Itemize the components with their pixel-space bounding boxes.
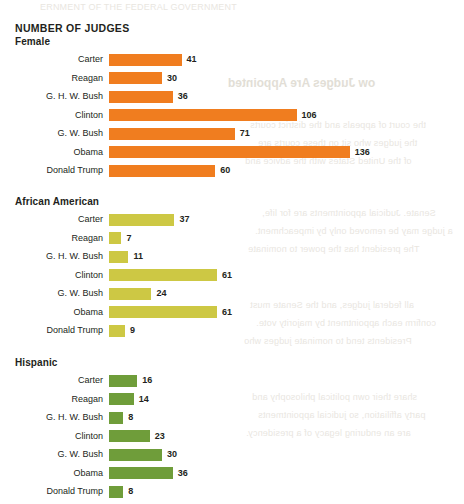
bar-value: 30 (167, 447, 177, 462)
bar-wrap: 36 (109, 466, 455, 481)
chart-row: Obama136 (15, 145, 455, 160)
bar-wrap: 30 (109, 71, 455, 86)
bar-wrap: 71 (109, 126, 455, 141)
chart-row: Reagan14 (15, 392, 455, 407)
row-label: Reagan (15, 392, 109, 407)
row-label: G. H. W. Bush (15, 89, 109, 104)
row-label: Carter (15, 373, 109, 388)
row-label: Obama (15, 305, 109, 320)
row-label: G. H. W. Bush (15, 410, 109, 425)
row-label: G. W. Bush (15, 126, 109, 141)
chart-row: Donald Trump8 (15, 484, 455, 499)
bar-value: 8 (128, 484, 133, 499)
chart-row: Reagan7 (15, 231, 455, 246)
bar-wrap: 136 (109, 145, 455, 160)
bar-wrap: 7 (109, 231, 455, 246)
bar (109, 214, 174, 226)
chart-row: Carter41 (15, 52, 455, 67)
bar-value: 71 (240, 126, 250, 141)
bar-wrap: 8 (109, 410, 455, 425)
bar (109, 165, 215, 177)
bar (109, 128, 235, 140)
bar-value: 11 (133, 249, 143, 264)
bar-wrap: 36 (109, 89, 455, 104)
bar-value: 24 (156, 286, 166, 301)
group-label: Hispanic (15, 357, 455, 368)
bar (109, 325, 125, 337)
bar-value: 37 (179, 212, 189, 227)
chart-row: Donald Trump9 (15, 323, 455, 338)
chart-row: G. W. Bush30 (15, 447, 455, 462)
bar (109, 393, 134, 405)
bar-value: 61 (222, 268, 232, 283)
bar (109, 430, 150, 442)
chart-row: Reagan30 (15, 71, 455, 86)
bar-value: 36 (178, 89, 188, 104)
chart-row: Obama36 (15, 466, 455, 481)
bar (109, 232, 121, 244)
bar-wrap: 30 (109, 447, 455, 462)
chart-title: NUMBER OF JUDGES (15, 22, 129, 34)
bar-value: 60 (220, 163, 230, 178)
row-label: Carter (15, 212, 109, 227)
chart-row: G. W. Bush71 (15, 126, 455, 141)
chart-row: Clinton23 (15, 429, 455, 444)
bar (109, 375, 137, 387)
bar (109, 269, 217, 281)
chart-row: Carter37 (15, 212, 455, 227)
bar (109, 72, 162, 84)
bar (109, 449, 162, 461)
bar-value: 8 (128, 410, 133, 425)
bar-wrap: 61 (109, 268, 455, 283)
bar (109, 467, 173, 479)
judges-chart: NUMBER OF JUDGES FemaleCarter41Reagan30G… (0, 0, 464, 504)
bar-value: 61 (222, 305, 232, 320)
chart-row: G. H. W. Bush11 (15, 249, 455, 264)
chart-row: Carter16 (15, 373, 455, 388)
row-label: Obama (15, 145, 109, 160)
bar-value: 9 (130, 323, 135, 338)
row-label: Clinton (15, 268, 109, 283)
chart-row: Donald Trump60 (15, 163, 455, 178)
row-label: Carter (15, 52, 109, 67)
bar (109, 412, 123, 424)
chart-row: Clinton61 (15, 268, 455, 283)
bar-value: 106 (302, 108, 317, 123)
bar (109, 91, 173, 103)
bar-value: 36 (178, 466, 188, 481)
bar-wrap: 60 (109, 163, 455, 178)
group-label: Female (15, 36, 455, 47)
bar-value: 16 (142, 373, 152, 388)
group-label: African American (15, 196, 455, 207)
chart-row: Clinton106 (15, 108, 455, 123)
chart-group: FemaleCarter41Reagan30G. H. W. Bush36Cli… (15, 36, 455, 182)
bar-wrap: 106 (109, 108, 455, 123)
bar (109, 146, 350, 158)
bar (109, 109, 297, 121)
row-label: Clinton (15, 429, 109, 444)
row-label: G. W. Bush (15, 286, 109, 301)
row-label: Donald Trump (15, 323, 109, 338)
row-label: Donald Trump (15, 484, 109, 499)
bar (109, 251, 128, 263)
chart-row: Obama61 (15, 305, 455, 320)
bar-value: 23 (155, 429, 165, 444)
bar-wrap: 11 (109, 249, 455, 264)
bar-wrap: 8 (109, 484, 455, 499)
bar-wrap: 24 (109, 286, 455, 301)
bar-wrap: 14 (109, 392, 455, 407)
bar (109, 486, 123, 498)
row-label: Clinton (15, 108, 109, 123)
bar-value: 7 (126, 231, 131, 246)
bar-wrap: 37 (109, 212, 455, 227)
bar-wrap: 61 (109, 305, 455, 320)
bar-value: 30 (167, 71, 177, 86)
row-label: Reagan (15, 231, 109, 246)
chart-row: G. H. W. Bush36 (15, 89, 455, 104)
row-label: G. W. Bush (15, 447, 109, 462)
row-label: Reagan (15, 71, 109, 86)
row-label: Donald Trump (15, 163, 109, 178)
bar-wrap: 23 (109, 429, 455, 444)
bar-value: 136 (355, 145, 370, 160)
bar (109, 54, 182, 66)
